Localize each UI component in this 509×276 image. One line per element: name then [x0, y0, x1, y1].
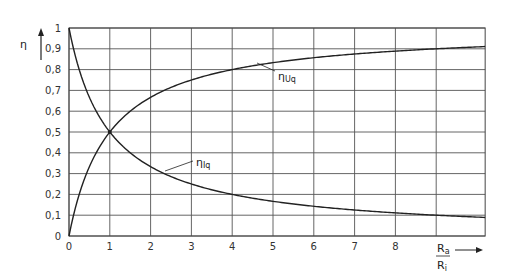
x-tick-label: 3: [188, 241, 194, 252]
y-axis-symbol: η: [20, 38, 27, 51]
x-tick-label: 7: [351, 241, 357, 252]
x-tick-label: 4: [229, 241, 235, 252]
x-label-denominator: Ri: [437, 259, 447, 273]
y-tick-label: 0,5: [45, 127, 61, 138]
svg-text:ηIq: ηIq: [196, 156, 210, 170]
x-tick-labels: 012345678: [66, 241, 399, 252]
x-tick-label: 5: [270, 241, 276, 252]
y-tick-label: 0,1: [45, 210, 61, 221]
x-tick-label: 1: [107, 241, 113, 252]
grid-lines: [69, 28, 485, 236]
x-tick-label: 8: [392, 241, 398, 252]
y-tick-label: 1: [55, 23, 61, 34]
x-axis-label: Ra Ri: [436, 242, 483, 273]
x-label-numerator: Ra: [437, 242, 450, 256]
y-tick-label: 0,3: [45, 168, 61, 179]
y-tick-label: 0,8: [45, 64, 61, 75]
annotation-eta-iq: ηIq: [165, 156, 210, 171]
y-tick-label: 0,9: [45, 43, 61, 54]
x-tick-label: 0: [66, 241, 72, 252]
curve-ηIq: [69, 28, 485, 217]
x-tick-label: 6: [311, 241, 317, 252]
x-tick-label: 2: [147, 241, 153, 252]
y-tick-label: 0: [55, 231, 61, 242]
y-axis-arrow-icon: [38, 28, 44, 36]
intersection-point: [108, 130, 112, 134]
annotation-eta-uq: ηUq: [257, 63, 296, 84]
y-tick-label: 0,2: [45, 189, 61, 200]
x-axis-arrow-icon: [476, 247, 483, 253]
y-tick-label: 0,4: [45, 147, 61, 158]
efficiency-chart: 00,10,20,30,40,50,60,70,80,91 012345678 …: [0, 0, 509, 276]
y-tick-label: 0,6: [45, 106, 61, 117]
y-axis-label: η: [20, 28, 44, 60]
svg-text:ηUq: ηUq: [278, 70, 296, 84]
y-tick-label: 0,7: [45, 85, 61, 96]
y-tick-labels: 00,10,20,30,40,50,60,70,80,91: [45, 23, 61, 242]
